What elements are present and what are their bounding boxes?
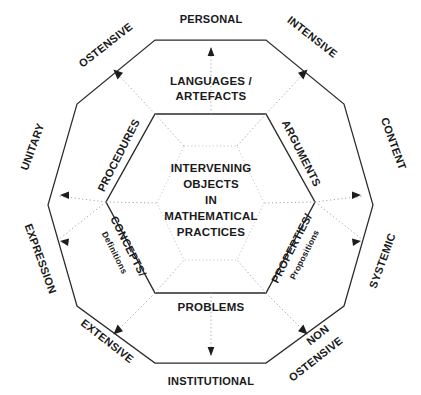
center-line-2: OBJECTS (183, 178, 239, 190)
center-line-4: MATHEMATICAL (164, 210, 257, 222)
outer-label-personal: PERSONAL (180, 13, 243, 25)
inner-label-languages: LANGUAGES / (170, 75, 253, 87)
inner-label-procedures: PROCEDURES (95, 117, 142, 193)
outer-label-unitary: UNITARY (18, 121, 46, 172)
outer-label-institutional: INSTITUTIONAL (168, 375, 254, 387)
inner-label-artefacts: ARTEFACTS (176, 90, 247, 102)
ontological-model-diagram: PERSONAL INTENSIVE CONTENT SYSTEMIC NON … (0, 0, 421, 395)
outer-label-intensive: INTENSIVE (285, 14, 340, 60)
center-line-1: INTERVENING (171, 162, 252, 174)
outer-label-ostensive: OSTENSIVE (76, 20, 134, 69)
center-line-3: IN (205, 194, 217, 206)
inner-label-problems: PROBLEMS (178, 301, 245, 313)
outer-label-content: CONTENT (379, 116, 409, 171)
outer-label-extensive: EXTENSIVE (79, 317, 136, 366)
outer-label-systemic: SYSTEMIC (367, 231, 398, 289)
diagram-root: PERSONAL INTENSIVE CONTENT SYSTEMIC NON … (0, 0, 421, 395)
center-text-block: INTERVENING OBJECTS IN MATHEMATICAL PRAC… (164, 162, 257, 238)
center-line-5: PRACTICES (177, 226, 245, 238)
outer-label-expression: EXPRESSION (23, 222, 59, 295)
